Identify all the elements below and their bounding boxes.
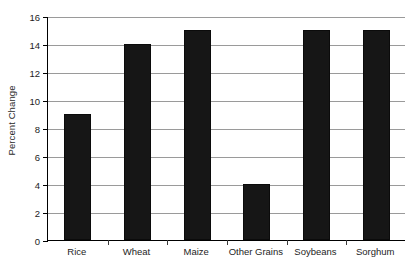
- bar-chart-figure: Percent Change 0246810121416 RiceWheatMa…: [0, 0, 411, 276]
- gridline: [48, 45, 405, 46]
- gridline: [48, 157, 405, 158]
- x-axis-tick: [167, 240, 168, 245]
- y-axis-title-text: Percent Change: [6, 85, 17, 155]
- y-axis-tick-label: 8: [35, 124, 40, 135]
- gridline: [48, 213, 405, 214]
- bar: [243, 184, 270, 240]
- y-axis-tick: [43, 213, 48, 214]
- y-axis-tick-label: 0: [35, 236, 40, 247]
- bar: [303, 30, 330, 240]
- x-axis-category-label: Maize: [166, 246, 226, 257]
- y-axis-tick-label: 10: [29, 96, 40, 107]
- y-axis-tick: [43, 241, 48, 242]
- gridline: [48, 73, 405, 74]
- y-axis-tick-label: 16: [29, 12, 40, 23]
- gridline: [48, 101, 405, 102]
- x-axis-tick: [287, 240, 288, 245]
- bar: [184, 30, 211, 240]
- x-axis-tick: [227, 240, 228, 245]
- y-axis-tick: [43, 101, 48, 102]
- y-axis-tick: [43, 157, 48, 158]
- bar: [124, 44, 151, 240]
- y-axis-tick: [43, 129, 48, 130]
- bar: [64, 114, 91, 240]
- y-axis-tick-label: 6: [35, 152, 40, 163]
- x-axis-category-label: Rice: [47, 246, 107, 257]
- y-axis-tick: [43, 45, 48, 46]
- y-axis-tick-label: 2: [35, 208, 40, 219]
- y-axis-tick-label: 4: [35, 180, 40, 191]
- gridline: [48, 185, 405, 186]
- x-axis-category-label: Wheat: [107, 246, 167, 257]
- x-axis-category-label: Sorghum: [345, 246, 405, 257]
- bar: [363, 30, 390, 240]
- y-axis-title: Percent Change: [0, 0, 22, 241]
- x-axis-tick: [346, 240, 347, 245]
- gridline: [48, 17, 405, 18]
- x-axis-category-label: Other Grains: [226, 246, 286, 257]
- y-axis-tick: [43, 73, 48, 74]
- x-axis-tick: [108, 240, 109, 245]
- y-axis-tick: [43, 17, 48, 18]
- y-axis-tick-label: 12: [29, 68, 40, 79]
- y-axis-tick-label: 14: [29, 40, 40, 51]
- gridline: [48, 129, 405, 130]
- plot-area: 0246810121416: [47, 17, 405, 241]
- y-axis-tick: [43, 185, 48, 186]
- x-axis-category-label: Soybeans: [286, 246, 346, 257]
